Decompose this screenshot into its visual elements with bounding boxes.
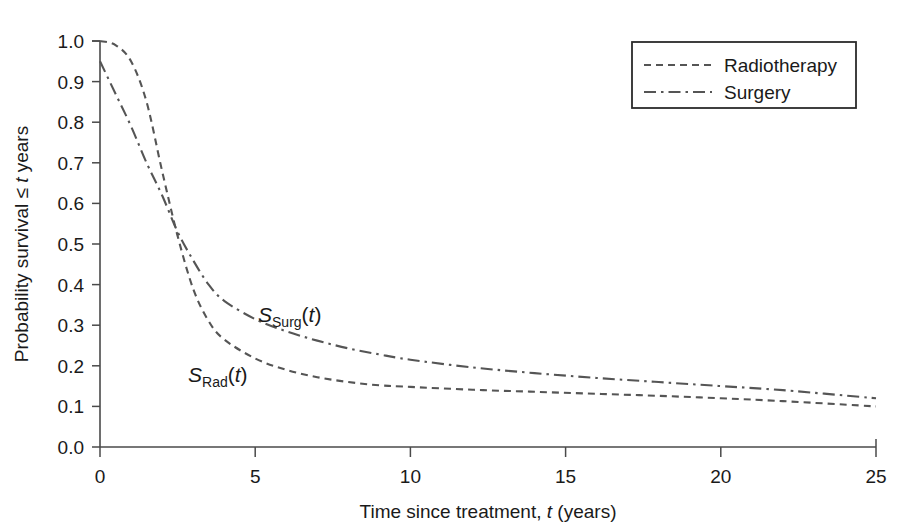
x-axis-title: Time since treatment, t (years) (360, 501, 617, 522)
curve-label-radiotherapy-close: ) (241, 363, 248, 386)
y-tick-label: 0.8 (58, 112, 84, 133)
curve-label-surgery-sub: Surg (272, 314, 302, 330)
curve-label-radiotherapy-open: ( (228, 363, 235, 386)
x-axis-title-tail: (years) (552, 501, 616, 522)
curve-label-surgery-s: S (258, 303, 272, 326)
y-axis-title-main: Probability survival ≤ (11, 183, 32, 362)
y-tick-label: 1.0 (58, 31, 84, 52)
x-tick-label: 15 (555, 466, 576, 487)
x-tick-label: 10 (400, 466, 421, 487)
curve-label-radiotherapy-sub: Rad (202, 374, 228, 390)
legend: Radiotherapy Surgery (632, 42, 856, 108)
y-tick-labels: 1.0 0.9 0.8 0.7 0.6 0.5 0.4 0.3 0.2 0.1 … (58, 31, 85, 458)
survival-chart-figure: 1.0 0.9 0.8 0.7 0.6 0.5 0.4 0.3 0.2 0.1 … (0, 0, 905, 529)
y-tick-label: 0.0 (58, 437, 84, 458)
y-axis-title: Probability survival ≤ t years (11, 126, 32, 362)
y-tick-marks (92, 41, 100, 447)
x-tick-label: 0 (95, 466, 106, 487)
x-tick-label: 25 (865, 466, 886, 487)
y-tick-label: 0.9 (58, 72, 84, 93)
x-tick-marks (100, 447, 876, 457)
curve-label-surgery-open: ( (302, 303, 309, 326)
x-tick-labels: 0 5 10 15 20 25 (95, 466, 887, 487)
series-line-surgery (100, 61, 876, 398)
legend-label-radiotherapy: Radiotherapy (724, 55, 838, 76)
curve-label-surgery: SSurg(t) (258, 303, 321, 330)
y-tick-label: 0.4 (58, 275, 85, 296)
y-tick-label: 0.3 (58, 315, 84, 336)
x-tick-label: 20 (710, 466, 731, 487)
x-tick-label: 5 (250, 466, 261, 487)
chart-svg: 1.0 0.9 0.8 0.7 0.6 0.5 0.4 0.3 0.2 0.1 … (0, 0, 905, 529)
y-tick-label: 0.5 (58, 234, 84, 255)
y-tick-label: 0.6 (58, 193, 84, 214)
legend-label-surgery: Surgery (724, 82, 791, 103)
x-axis-title-main: Time since treatment, (360, 501, 547, 522)
y-tick-label: 0.7 (58, 153, 84, 174)
curve-label-radiotherapy: SRad(t) (188, 363, 248, 390)
y-axis-title-tail: years (11, 126, 32, 178)
y-tick-label: 0.1 (58, 396, 84, 417)
curve-label-radiotherapy-s: S (188, 363, 202, 386)
y-tick-label: 0.2 (58, 356, 84, 377)
curve-label-surgery-close: ) (314, 303, 321, 326)
